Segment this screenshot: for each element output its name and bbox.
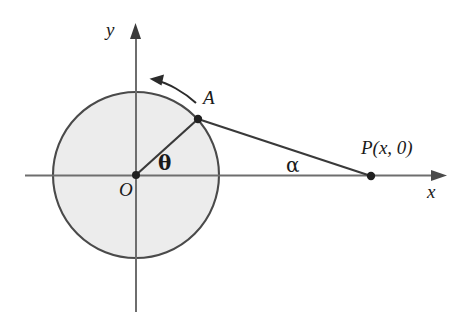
- point-a-marker: [194, 115, 202, 123]
- y-axis-arrowhead: [130, 23, 141, 39]
- angle-theta-label: θ: [158, 153, 171, 173]
- rotation-arrowhead: [150, 75, 165, 86]
- x-axis-label: x: [427, 182, 435, 201]
- point-o-marker: [132, 171, 140, 179]
- origin-label: O: [119, 180, 133, 199]
- point-a-label: A: [203, 88, 215, 107]
- geometry-figure: y x A O P(x, 0) θ α: [0, 0, 464, 327]
- x-axis-arrowhead: [431, 170, 447, 181]
- point-p-label: P(x, 0): [361, 138, 413, 157]
- segment-ap: [198, 119, 371, 176]
- diagram-canvas: [0, 0, 464, 327]
- angle-alpha-label: α: [286, 155, 300, 175]
- point-p-marker: [367, 172, 375, 180]
- y-axis-label: y: [106, 20, 114, 39]
